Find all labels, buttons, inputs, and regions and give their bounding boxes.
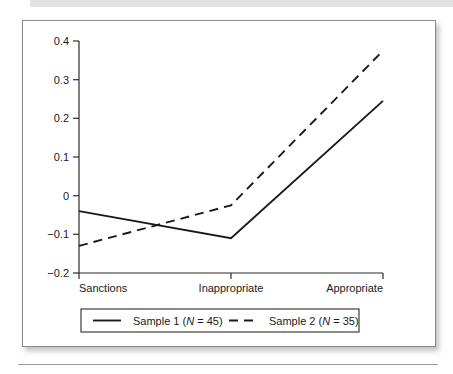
- figure-card: 0.4 0.3 0.2 0.1 0 −0.1 −0.2 Sanctions In…: [22, 20, 436, 347]
- series-line-sample-2: [79, 51, 383, 246]
- y-tick-label-6: −0.2: [47, 267, 69, 279]
- line-chart: 0.4 0.3 0.2 0.1 0 −0.1 −0.2 Sanctions In…: [23, 21, 435, 346]
- x-category-label-sanctions: Sanctions: [79, 282, 128, 294]
- x-category-label-appropriate: Appropriate: [326, 282, 383, 294]
- legend-label-sample-2: Sample 2 (N = 35): [269, 315, 359, 327]
- y-tick-label-4: 0: [63, 190, 69, 202]
- x-tick-marks: [79, 273, 383, 279]
- x-category-label-inappropriate: Inappropriate: [199, 282, 264, 294]
- bottom-horizontal-rule: [18, 364, 438, 365]
- legend-label-sample-1: Sample 1 (N = 45): [133, 315, 223, 327]
- y-tick-label-5: −0.1: [47, 228, 69, 240]
- y-tick-label-1: 0.3: [54, 74, 69, 86]
- top-decorative-band: [30, 0, 453, 7]
- y-tick-label-3: 0.1: [54, 151, 69, 163]
- series-line-sample-1: [79, 101, 383, 238]
- y-tick-marks: [73, 41, 79, 273]
- y-tick-label-0: 0.4: [54, 35, 69, 47]
- chart-legend: Sample 1 (N = 45) Sample 2 (N = 35): [81, 309, 359, 332]
- y-tick-label-2: 0.2: [54, 112, 69, 124]
